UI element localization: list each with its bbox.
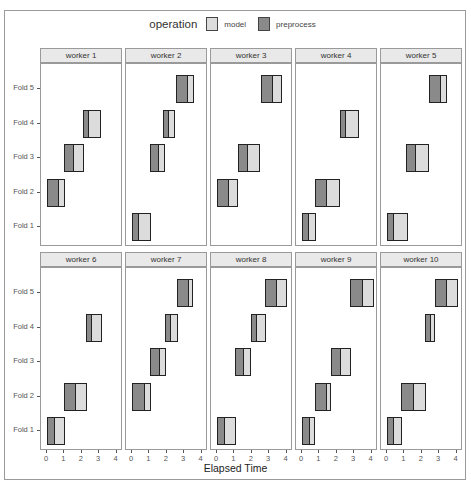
- x-tick: [216, 450, 217, 453]
- facet-strip-label: worker 10: [380, 252, 462, 267]
- legend-key-preprocess: [258, 17, 270, 31]
- preprocess-segment: [316, 180, 327, 206]
- x-tick: [421, 450, 422, 453]
- preprocess-segment: [303, 418, 310, 444]
- task-bar: [302, 417, 315, 445]
- task-bar: [406, 144, 429, 172]
- x-tick: [148, 450, 149, 453]
- preprocess-segment: [316, 384, 327, 410]
- model-segment: [160, 349, 165, 375]
- legend-label-preprocess: preprocess: [276, 20, 316, 29]
- task-bar: [217, 417, 236, 445]
- model-segment: [277, 280, 285, 306]
- plot-area: [295, 63, 377, 246]
- x-tick: [456, 450, 457, 453]
- model-segment: [248, 145, 260, 171]
- model-segment: [229, 180, 237, 206]
- preprocess-segment: [48, 418, 55, 444]
- model-segment: [363, 280, 373, 306]
- plot-area: [125, 63, 207, 246]
- y-tick: [37, 226, 40, 227]
- x-tick: [438, 450, 439, 453]
- x-axis-title: Elapsed Time: [0, 462, 471, 474]
- task-bar: [235, 348, 251, 376]
- legend-key-model: [206, 17, 218, 31]
- model-segment: [273, 76, 281, 102]
- x-tick: [116, 450, 117, 453]
- plot-area: [40, 63, 122, 246]
- legend-title: operation: [149, 18, 197, 30]
- y-tick-label: Fold 1: [2, 221, 34, 230]
- model-segment: [55, 418, 64, 444]
- model-segment: [145, 384, 150, 410]
- model-segment: [139, 214, 150, 240]
- task-bar: [350, 279, 374, 307]
- task-bar: [132, 213, 151, 241]
- model-segment: [171, 315, 177, 341]
- task-bar: [238, 144, 261, 172]
- task-bar: [315, 179, 340, 207]
- y-tick: [37, 157, 40, 158]
- plot-area: [380, 267, 462, 450]
- task-bar: [47, 179, 65, 207]
- y-tick-label: Fold 2: [2, 187, 34, 196]
- preprocess-segment: [65, 145, 74, 171]
- task-bar: [429, 75, 447, 103]
- preprocess-segment: [351, 280, 363, 306]
- preprocess-segment: [402, 384, 413, 410]
- task-bar: [64, 144, 84, 172]
- task-bar: [265, 279, 287, 307]
- plot-area: [295, 267, 377, 450]
- y-tick: [37, 88, 40, 89]
- facet-panel: worker 5: [380, 48, 462, 246]
- preprocess-segment: [48, 180, 59, 206]
- model-segment: [341, 349, 350, 375]
- x-tick: [353, 450, 354, 453]
- model-segment: [416, 145, 428, 171]
- task-bar: [387, 213, 408, 241]
- facet-panel: worker 3: [210, 48, 292, 246]
- facet-strip-label: worker 1: [40, 48, 122, 63]
- model-segment: [309, 214, 314, 240]
- plot-area: [380, 63, 462, 246]
- preprocess-segment: [436, 280, 447, 306]
- model-segment: [257, 315, 265, 341]
- model-segment: [89, 111, 100, 137]
- x-tick: [201, 450, 202, 453]
- model-segment: [327, 180, 339, 206]
- preprocess-segment: [407, 145, 416, 171]
- x-tick: [63, 450, 64, 453]
- task-bar: [261, 75, 283, 103]
- preprocess-segment: [236, 349, 244, 375]
- plot-area: [40, 267, 122, 450]
- preprocess-segment: [332, 349, 341, 375]
- y-tick: [37, 292, 40, 293]
- y-tick: [37, 192, 40, 193]
- task-bar: [387, 417, 402, 445]
- model-segment: [310, 418, 314, 444]
- x-tick: [166, 450, 167, 453]
- x-tick: [131, 450, 132, 453]
- y-tick: [37, 396, 40, 397]
- facet-strip-label: worker 6: [40, 252, 122, 267]
- model-segment: [431, 315, 435, 341]
- task-bar: [401, 383, 426, 411]
- y-tick-label: Fold 5: [2, 83, 34, 92]
- facet-strip-label: worker 4: [295, 48, 377, 63]
- x-tick: [251, 450, 252, 453]
- task-bar: [315, 383, 331, 411]
- facet-panel: worker 2: [125, 48, 207, 246]
- y-tick: [37, 430, 40, 431]
- y-tick: [37, 361, 40, 362]
- y-tick-label: Fold 1: [2, 425, 34, 434]
- model-segment: [76, 384, 86, 410]
- model-segment: [92, 315, 100, 341]
- preprocess-segment: [177, 76, 188, 102]
- task-bar: [177, 279, 193, 307]
- task-bar: [165, 314, 178, 342]
- preprocess-segment: [218, 180, 229, 206]
- x-tick: [336, 450, 337, 453]
- plot-area: [125, 267, 207, 450]
- model-segment: [414, 384, 425, 410]
- x-tick: [268, 450, 269, 453]
